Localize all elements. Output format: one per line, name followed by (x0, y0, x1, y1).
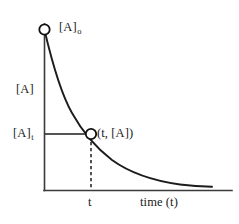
initial-concentration-label-text: [A] (59, 20, 77, 34)
point-coordinate-label: (t, [A]) (97, 127, 133, 140)
concentration-at-t-marker (86, 129, 96, 139)
initial-concentration-subscript: o (77, 26, 81, 36)
concentration-at-t-label-text: [A] (13, 126, 31, 140)
y-axis-label-text: [A] (16, 82, 34, 96)
initial-concentration-label: [A]o (59, 21, 81, 34)
x-axis-tick-label-t: t (88, 196, 92, 209)
concentration-at-t-label: [A]t (13, 127, 33, 140)
decay-curve (45, 30, 213, 187)
initial-concentration-marker (39, 24, 49, 34)
concentration-at-t-subscript: t (31, 132, 33, 142)
y-axis-label: [A] (16, 83, 34, 96)
decay-plot-figure: [A]o [A] [A]t (t, [A]) t time (t) (0, 0, 239, 224)
plot-canvas (0, 0, 239, 224)
x-axis-label: time (t) (140, 196, 178, 209)
